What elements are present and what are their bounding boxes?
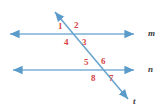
geometry-canvas <box>0 0 165 112</box>
angle-label-1: 1 <box>58 22 63 31</box>
angle-label-6: 6 <box>101 57 106 66</box>
line-label-m: m <box>148 29 155 38</box>
angle-label-7: 7 <box>109 74 114 83</box>
angle-label-3: 3 <box>82 38 87 47</box>
line-t-stroke <box>55 12 128 99</box>
line-label-t: t <box>133 97 136 106</box>
geometry-figure: m n t 1 2 3 4 5 6 7 8 <box>0 0 165 112</box>
angle-label-8: 8 <box>91 74 96 83</box>
angle-label-5: 5 <box>84 58 89 67</box>
angle-label-4: 4 <box>64 38 69 47</box>
line-label-n: n <box>148 65 153 74</box>
angle-label-2: 2 <box>74 21 79 30</box>
